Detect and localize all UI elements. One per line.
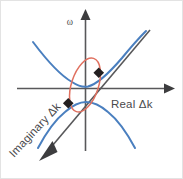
blue-band-curves xyxy=(33,31,146,148)
imaginary-axis-line xyxy=(47,30,150,152)
real-delta-k-label: Real Δk xyxy=(111,98,153,110)
band-edge-marker-upper xyxy=(93,67,104,78)
figure-border xyxy=(1,1,183,179)
real-delta-k-axis xyxy=(17,84,175,94)
imaginary-delta-k-axis xyxy=(39,30,150,161)
omega-axis-arrowhead xyxy=(81,9,91,20)
omega-label: ω xyxy=(67,17,73,27)
axes-group xyxy=(17,9,175,161)
dispersion-diagram-figure: ω Real Δk Imaginary Δk xyxy=(0,0,183,179)
diagram-canvas: ω Real Δk Imaginary Δk xyxy=(0,0,183,179)
omega-axis xyxy=(81,9,91,151)
real-axis-arrowhead xyxy=(164,84,175,94)
